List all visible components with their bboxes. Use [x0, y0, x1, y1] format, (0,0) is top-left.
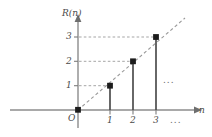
x-tick-label-1: 1: [107, 116, 113, 125]
y-tick-label-2: 2: [66, 57, 72, 66]
origin-label: O: [68, 114, 75, 123]
x-tick-label-3: 3: [153, 116, 159, 125]
x-axis-ellipsis: ...: [170, 116, 182, 125]
y-axis-label: R(n): [62, 9, 82, 18]
data-point-3: [153, 34, 159, 40]
x-tick-label-2: 2: [130, 116, 136, 125]
x-axis: [10, 106, 202, 113]
y-tick-label-1: 1: [66, 81, 72, 90]
data-point-0: [75, 107, 81, 113]
data-point-markers: [75, 34, 159, 113]
x-axis-label: n: [199, 106, 205, 115]
data-point-1: [107, 83, 113, 89]
stem-lines: [110, 37, 156, 110]
plot-continuation-ellipsis: ...: [163, 76, 175, 85]
y-tick-label-3: 3: [66, 32, 72, 41]
leader-lines: [79, 37, 156, 86]
function-plot-figure: R(n) n O 1 2 3 ... 1 2 3 ...: [0, 0, 212, 137]
data-point-2: [130, 58, 136, 64]
